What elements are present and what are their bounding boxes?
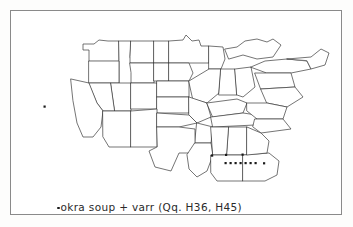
us-dialect-map: [11, 11, 343, 216]
region-outline-iowa: [169, 63, 193, 81]
region-outline-montana: [130, 41, 154, 63]
map-frame-border: okra soup + varr (Qq. H36, H45): [10, 10, 342, 215]
data-dot: [230, 162, 232, 164]
region-outline-georgia: [211, 155, 243, 181]
region-outline-wisconsin: [209, 46, 225, 69]
region-outline-new-mexico: [131, 109, 157, 147]
map-caption: okra soup + varr (Qq. H36, H45): [57, 201, 242, 213]
data-dot: [211, 155, 213, 157]
region-outline-michigan: [225, 39, 281, 59]
region-outline-nebraska: [157, 81, 189, 97]
region-outline-arkansas: [195, 123, 213, 143]
region-outline-north-dakota: [154, 41, 169, 63]
region-outline-south-dakota: [154, 63, 169, 81]
figure-root: okra soup + varr (Qq. H36, H45): [0, 0, 353, 227]
data-dot: [225, 154, 227, 156]
region-outline-minnesota: [169, 35, 209, 63]
region-outline-washington: [83, 40, 119, 61]
data-dot: [242, 154, 244, 156]
state-outlines: [71, 35, 329, 181]
region-outline-ohio: [235, 67, 255, 97]
data-dot: [263, 162, 265, 164]
dot-marker-icon: [57, 207, 60, 210]
region-outline-mississippi: [211, 127, 229, 155]
data-dot: [44, 106, 46, 108]
region-outline-wyoming: [130, 63, 154, 83]
region-outline-south-carolina: [243, 153, 279, 181]
region-outline-indiana: [219, 69, 237, 95]
region-outline-north-carolina: [253, 119, 291, 133]
region-outline-pennsylvania: [255, 73, 295, 89]
data-dot: [250, 162, 252, 164]
data-dot: [245, 162, 247, 164]
region-outline-kansas: [157, 97, 189, 113]
data-dot: [235, 162, 237, 164]
region-outline-arizona: [103, 111, 131, 147]
region-outline-oregon: [89, 61, 119, 83]
region-outline-alabama: [227, 127, 247, 155]
region-outline-new-york: [251, 59, 311, 73]
region-outline-colorado: [131, 83, 157, 109]
region-outline-illinois: [189, 69, 221, 103]
data-dot: [225, 162, 227, 164]
data-dot: [255, 162, 257, 164]
data-dot: [240, 162, 242, 164]
caption-text: okra soup + varr (Qq. H36, H45): [61, 201, 243, 213]
